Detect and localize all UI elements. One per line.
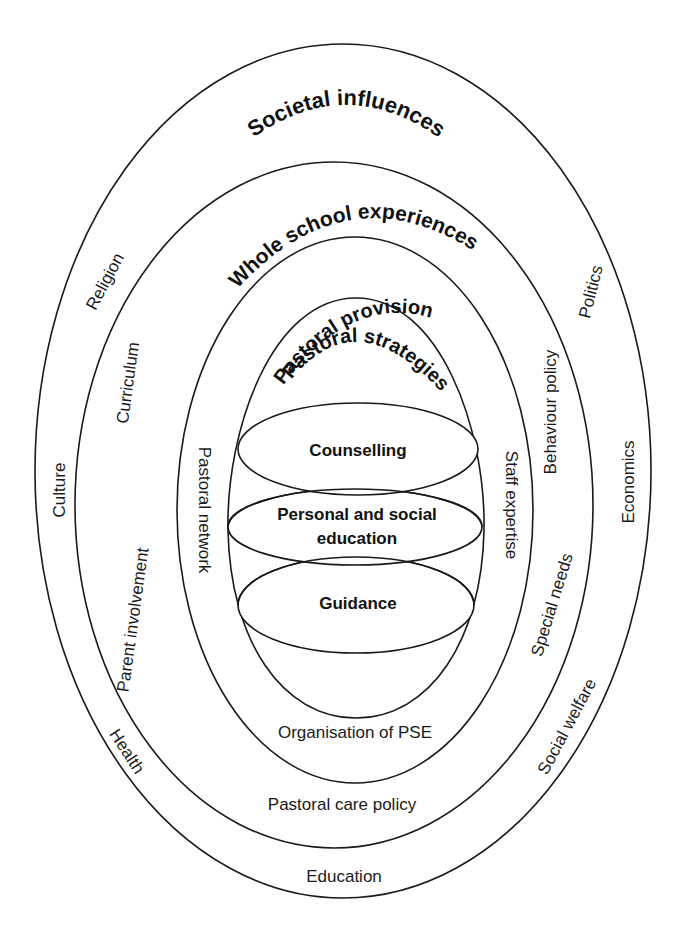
label-curriculum: Curriculum	[113, 341, 143, 425]
label-economics: Economics	[619, 440, 638, 523]
label-behaviour-policy: Behaviour policy	[541, 349, 560, 474]
label-culture: Culture	[50, 463, 69, 518]
nested-ellipse-diagram: Societal influences Whole school experie…	[0, 0, 687, 933]
label-pastoral-care-policy: Pastoral care policy	[268, 795, 417, 814]
label-organisation-of-pse: Organisation of PSE	[278, 723, 432, 742]
label-staff-expertise: Staff expertise	[502, 451, 521, 559]
heading-whole-school-experiences: Whole school experiences	[224, 199, 483, 291]
label-guidance: Guidance	[319, 594, 396, 613]
label-pastoral-network: Pastoral network	[195, 447, 214, 574]
label-parent-involvement: Parent involvement	[113, 546, 152, 693]
label-pse-line2: education	[317, 529, 397, 548]
label-politics: Politics	[575, 263, 606, 320]
heading-societal-influences: Societal influences	[243, 85, 450, 142]
label-health: Health	[106, 726, 149, 778]
label-special-needs: Special needs	[527, 551, 576, 659]
label-education: Education	[306, 867, 382, 886]
heading-pastoral-strategies: Pastoral strategies	[278, 324, 455, 395]
label-pse-line1: Personal and social	[277, 505, 437, 524]
label-religion: Religion	[82, 250, 128, 313]
label-counselling: Counselling	[309, 441, 406, 460]
